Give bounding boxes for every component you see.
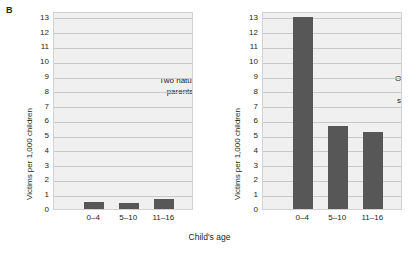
bar [84,202,104,209]
gridline [54,181,192,182]
y-tick-label: 5 [254,132,258,140]
gridline [263,78,401,79]
gridline [263,92,401,93]
gridline [54,92,192,93]
gridline [54,122,192,123]
y-tick-label: 2 [254,176,258,184]
y-tick-label: 6 [254,117,258,125]
bar [154,199,174,209]
y-tick-label: 0 [45,206,49,214]
y-tick-label: 13 [249,14,258,22]
y-axis-title-right: Victims per 1,000 children [233,108,242,200]
y-tick-label: 0 [254,206,258,214]
gridline [54,196,192,197]
chart-panel-two-natural-parents: Victims per 1,000 children 0123456789101… [0,0,207,253]
gridline [263,48,401,49]
y-tick-label: 11 [41,43,49,51]
gridline [54,33,192,34]
x-tick-label: 0–4 [87,213,100,223]
x-tick-label: 5–10 [119,213,137,223]
bar [293,17,313,209]
x-tick-label: 11–16 [152,213,174,223]
x-axis-ticks-left: 0–45–1011–16 [53,213,193,225]
gridline [263,18,401,19]
y-tick-label: 9 [254,73,258,81]
gridline [263,63,401,64]
y-tick-label: 1 [45,191,49,199]
x-tick-label: 11–16 [361,213,383,223]
figure-panel-b: B Victims per 1,000 children 01234567891… [0,0,419,253]
bar [328,126,348,209]
gridline [54,151,192,152]
gridline [54,78,192,79]
y-tick-label: 12 [40,29,49,37]
y-tick-label: 7 [45,103,49,111]
chart-panel-one-natural-one-stepparent: Victims per 1,000 children 0123456789101… [207,0,419,253]
gridline [54,166,192,167]
y-tick-label: 1 [254,191,258,199]
y-axis-ticks-right: 012345678910111213 [242,12,258,210]
gridline [54,18,192,19]
x-axis-ticks-right: 0–45–1011–16 [262,213,402,225]
gridline [263,122,401,123]
bar [363,132,383,209]
y-tick-label: 7 [254,103,258,111]
plot-area-left: Two natural parents [53,12,193,210]
y-tick-label: 9 [45,73,49,81]
y-tick-label: 5 [45,132,49,140]
gridline [54,48,192,49]
y-tick-label: 3 [254,162,258,170]
y-tick-label: 3 [45,162,49,170]
plot-area-right: One natural and one stepparent [262,12,402,210]
y-tick-label: 12 [249,29,258,37]
y-axis-ticks-left: 012345678910111213 [33,12,49,210]
y-tick-label: 4 [254,147,258,155]
gridline [54,63,192,64]
x-tick-label: 0–4 [296,213,309,223]
y-tick-label: 8 [254,88,258,96]
y-tick-label: 2 [45,176,49,184]
x-axis-title: Child's age [0,232,419,242]
gridline [54,107,192,108]
y-tick-label: 10 [249,58,258,66]
y-tick-label: 4 [45,147,49,155]
y-tick-label: 8 [45,88,49,96]
x-tick-label: 5–10 [328,213,346,223]
y-tick-label: 13 [40,14,49,22]
gridline [54,137,192,138]
gridline [263,107,401,108]
y-tick-label: 6 [45,117,49,125]
y-tick-label: 10 [40,58,49,66]
bar [119,203,139,209]
y-tick-label: 11 [250,43,258,51]
gridline [263,33,401,34]
